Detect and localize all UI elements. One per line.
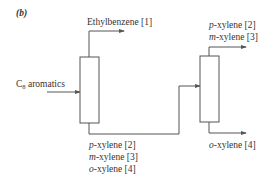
- column-2-top-product-p: p-xylene [2]: [208, 20, 256, 30]
- column-1-top-product-label: Ethylbenzene [1]: [87, 17, 152, 27]
- column-2-top-product-m: m-xylene [3]: [209, 32, 258, 42]
- column-2-bottom-product-o: o-xylene [4]: [209, 140, 256, 150]
- feed-label: C8 aromatics: [16, 79, 65, 90]
- panel-label: (b): [16, 8, 27, 19]
- column-2: [200, 56, 219, 122]
- column-1-bottom-product-o: o-xylene [4]: [89, 164, 136, 174]
- column-2-top-stream-arrow: [209, 47, 246, 56]
- separation-diagram: (b) C8 aromatics Ethylbenzene [1] p-xyle…: [0, 0, 277, 184]
- column-1-top-stream-arrow: [89, 31, 124, 57]
- column-1: [80, 57, 99, 123]
- column-1-bottom-product-m: m-xylene [3]: [89, 152, 138, 162]
- column-2-bottom-stream-arrow: [209, 122, 246, 133]
- column-1-bottom-product-p: p-xylene [2]: [88, 140, 136, 150]
- column-1-bottom-to-column-2-stream: [89, 86, 200, 134]
